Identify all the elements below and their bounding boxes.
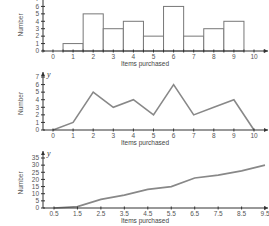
histogram-bar bbox=[184, 36, 204, 51]
x-tick-label: 7.5 bbox=[214, 210, 223, 217]
charts-figure: 01234567012345678910Items purchasedNumbe… bbox=[0, 0, 269, 226]
y-tick-label: 5 bbox=[35, 88, 39, 95]
y-tick-label: 7 bbox=[35, 73, 39, 80]
x-tick-label: 1 bbox=[71, 53, 75, 60]
x-tick-label: 3 bbox=[111, 132, 115, 139]
histogram-chart: 01234567012345678910Items purchasedNumbe… bbox=[17, 0, 268, 67]
y-tick-label: 2 bbox=[35, 111, 39, 118]
x-tick-label: 6 bbox=[172, 132, 176, 139]
x-tick-label: 9.5 bbox=[261, 210, 269, 217]
x-tick-label: 1 bbox=[71, 132, 75, 139]
cumulative-frequency-chart: y051015202530350.51.52.53.54.55.56.57.58… bbox=[17, 149, 269, 225]
x-tick-label: 6 bbox=[172, 53, 176, 60]
x-axis-title: Items purchased bbox=[121, 60, 169, 68]
y-axis-variable: y bbox=[46, 149, 51, 158]
y-tick-label: 0 bbox=[35, 126, 39, 133]
histogram-bar bbox=[83, 14, 103, 51]
x-axis-title: Items purchased bbox=[121, 217, 169, 225]
y-tick-label: 15 bbox=[32, 183, 40, 190]
y-tick-label: 2 bbox=[35, 32, 39, 39]
histogram-bar bbox=[103, 29, 123, 51]
y-tick-label: 0 bbox=[35, 204, 39, 211]
y-axis-title: Number bbox=[17, 171, 24, 195]
x-axis-arrow-icon bbox=[264, 49, 268, 53]
y-axis-arrow-icon bbox=[41, 72, 45, 76]
x-tick-label: 6.5 bbox=[190, 210, 199, 217]
histogram-bar bbox=[164, 6, 184, 51]
y-tick-label: 6 bbox=[35, 3, 39, 10]
y-axis-title: Number bbox=[17, 91, 24, 115]
x-tick-label: 7 bbox=[192, 53, 196, 60]
y-tick-label: 3 bbox=[35, 25, 39, 32]
y-tick-label: 4 bbox=[35, 18, 39, 25]
x-tick-label: 8.5 bbox=[237, 210, 246, 217]
x-tick-label: 2.5 bbox=[96, 210, 105, 217]
y-tick-label: 5 bbox=[35, 197, 39, 204]
histogram-bar bbox=[224, 21, 244, 51]
y-axis-arrow-icon bbox=[41, 151, 45, 155]
histogram-bar bbox=[143, 36, 163, 51]
x-tick-label: 8 bbox=[212, 132, 216, 139]
y-tick-label: 7 bbox=[35, 0, 39, 2]
y-tick-label: 4 bbox=[35, 96, 39, 103]
x-tick-label: 9 bbox=[232, 53, 236, 60]
x-tick-label: 0 bbox=[51, 132, 55, 139]
y-tick-label: 20 bbox=[32, 176, 40, 183]
y-axis-title: Number bbox=[17, 13, 24, 37]
frequency-polygon-chart: y01234567012345678910Items purchasedNumb… bbox=[17, 70, 268, 147]
x-tick-label: 1.5 bbox=[73, 210, 82, 217]
data-line bbox=[54, 165, 265, 208]
x-tick-label: 3 bbox=[111, 53, 115, 60]
x-tick-label: 7 bbox=[192, 132, 196, 139]
histogram-bar bbox=[204, 29, 224, 51]
x-tick-label: 9 bbox=[232, 132, 236, 139]
y-tick-label: 25 bbox=[32, 169, 40, 176]
x-tick-label: 2 bbox=[91, 53, 95, 60]
x-tick-label: 8 bbox=[212, 53, 216, 60]
x-tick-label: 0 bbox=[51, 53, 55, 60]
data-line bbox=[53, 85, 254, 130]
x-tick-label: 10 bbox=[250, 132, 258, 139]
histogram-bar bbox=[123, 21, 143, 51]
x-tick-label: 2 bbox=[91, 132, 95, 139]
y-tick-label: 1 bbox=[35, 40, 39, 47]
y-tick-label: 3 bbox=[35, 104, 39, 111]
x-tick-label: 0.5 bbox=[49, 210, 58, 217]
x-axis-title: Items purchased bbox=[121, 139, 169, 147]
y-tick-label: 5 bbox=[35, 10, 39, 17]
y-tick-label: 6 bbox=[35, 81, 39, 88]
y-tick-label: 35 bbox=[32, 154, 40, 161]
y-tick-label: 30 bbox=[32, 161, 40, 168]
y-tick-label: 0 bbox=[35, 47, 39, 54]
y-tick-label: 1 bbox=[35, 119, 39, 126]
y-axis-variable: y bbox=[46, 70, 51, 79]
x-axis-arrow-icon bbox=[264, 128, 268, 132]
x-tick-label: 10 bbox=[250, 53, 258, 60]
y-tick-label: 10 bbox=[32, 190, 40, 197]
